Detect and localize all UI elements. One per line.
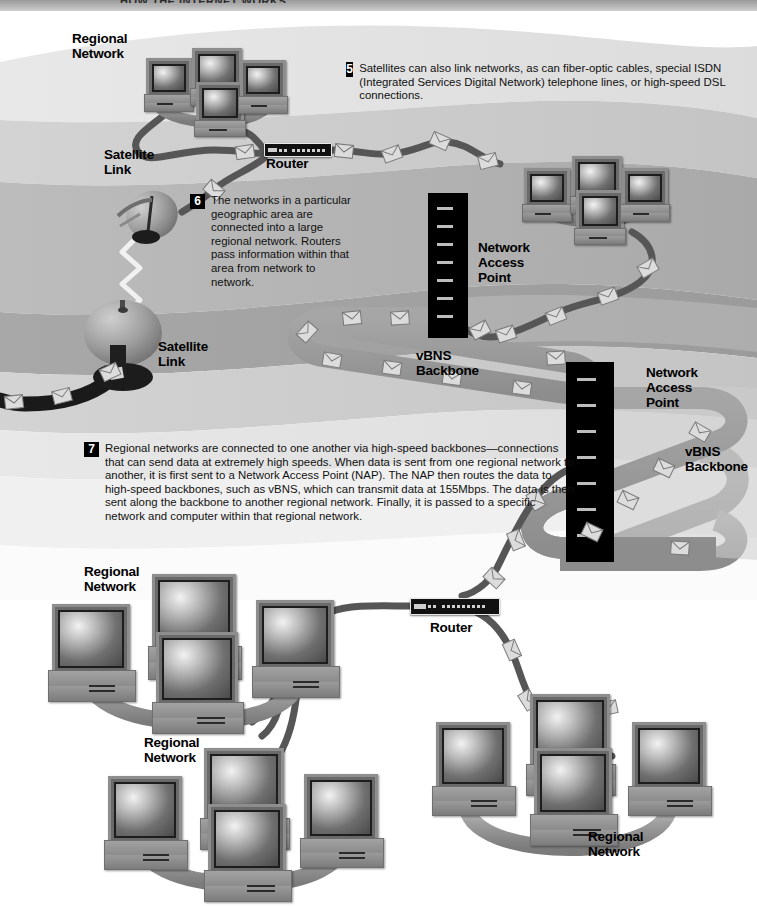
label-regional-network-bottom-right: Regional Network: [588, 829, 643, 859]
callout-7: 7 Regional networks are connected to one…: [84, 442, 584, 524]
callout-5: 5 Satellites can also link networks, as …: [346, 62, 742, 103]
callout-7-number: 7: [84, 442, 99, 457]
diagram-page: HOW THE INTERNET WORKS: [0, 0, 757, 906]
computer: [240, 60, 284, 112]
top-banner: [0, 0, 757, 11]
callout-6: 6 The networks in a particular geographi…: [190, 194, 360, 289]
callout-6-number: 6: [190, 194, 205, 209]
computer: [146, 58, 190, 110]
computer: [304, 774, 378, 866]
label-satellite-link-upper: Satellite Link: [104, 147, 154, 177]
computer: [436, 722, 510, 814]
satellite-dish-lower: [84, 300, 162, 391]
top-banner-title: HOW THE INTERNET WORKS: [120, 0, 286, 3]
label-nap-lower: Network Access Point: [646, 365, 698, 410]
callout-5-number: 5: [346, 62, 353, 77]
label-vbns-lower: vBNS Backbone: [685, 444, 748, 474]
computer: [208, 804, 286, 900]
computer: [256, 600, 334, 696]
label-nap-upper: Network Access Point: [478, 240, 530, 285]
computer: [156, 632, 238, 732]
network-access-point-upper: [428, 193, 468, 338]
computer: [632, 722, 706, 814]
label-router-bottom: Router: [430, 620, 472, 635]
satellite-dish-upper: [118, 184, 184, 246]
label-vbns-upper: vBNS Backbone: [416, 348, 479, 378]
label-router-top: Router: [266, 156, 308, 171]
router-bottom: [410, 598, 500, 615]
computer: [52, 604, 130, 700]
label-regional-network-bottom-middle: Regional Network: [144, 735, 199, 765]
callout-5-text: Satellites can also link networks, as ca…: [359, 62, 742, 103]
router-top: [264, 143, 332, 157]
computer: [576, 190, 622, 242]
computer: [108, 776, 182, 868]
computer: [524, 168, 568, 220]
computer: [196, 82, 242, 134]
computer: [622, 168, 666, 220]
callout-6-text: The networks in a particular geographic …: [211, 194, 351, 289]
label-regional-network-bottom-left: Regional Network: [84, 564, 139, 594]
callout-7-text: Regional networks are connected to one a…: [105, 442, 575, 524]
label-satellite-link-lower: Satellite Link: [158, 339, 208, 369]
label-regional-network-top: Regional Network: [72, 31, 127, 61]
